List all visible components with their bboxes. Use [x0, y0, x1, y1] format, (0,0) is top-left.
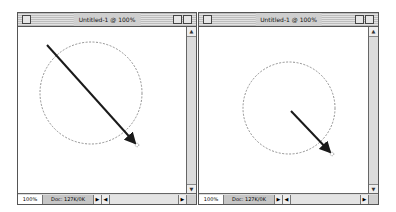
crosshair-cursor-icon — [135, 143, 139, 147]
selection-marquee — [243, 62, 335, 154]
crosshair-cursor-icon — [330, 152, 334, 156]
drag-arrow-icon — [291, 111, 330, 152]
artwork-layer — [0, 0, 396, 212]
drag-arrow-icon — [47, 45, 135, 143]
